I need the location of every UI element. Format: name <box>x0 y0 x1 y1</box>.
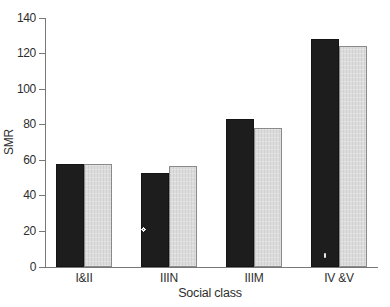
bar-black-3 <box>226 119 254 267</box>
scan-artifact-ring <box>141 227 146 232</box>
y-tick-mark-80 <box>39 124 45 125</box>
x-tick-label-1: I&II <box>44 271 124 285</box>
y-tick-mark-140 <box>39 18 45 19</box>
y-tick-label-80: 80 <box>4 118 36 131</box>
bar-chart-figure: SMR 020406080100120140I&IIIIINIIIMIV &V … <box>0 0 390 307</box>
bar-black-4 <box>311 39 339 267</box>
bar-grey-3 <box>254 128 282 267</box>
bar-grey-4 <box>339 46 367 267</box>
plot-area: 020406080100120140I&IIIIINIIIMIV &V <box>45 18 368 267</box>
x-tick-label-2: IIIN <box>129 271 209 285</box>
y-tick-label-120: 120 <box>4 47 36 60</box>
bar-black-2 <box>141 173 169 267</box>
x-axis-label: Social class <box>45 286 375 300</box>
bar-grey-1 <box>84 164 112 267</box>
x-axis-line <box>45 267 378 268</box>
y-tick-label-0: 0 <box>4 261 36 274</box>
y-tick-mark-40 <box>39 195 45 196</box>
y-tick-mark-60 <box>39 160 45 161</box>
y-tick-mark-120 <box>39 53 45 54</box>
y-tick-label-20: 20 <box>4 225 36 238</box>
y-tick-label-60: 60 <box>4 154 36 167</box>
y-tick-label-140: 140 <box>4 12 36 25</box>
bar-grey-2 <box>169 166 197 267</box>
y-tick-mark-100 <box>39 89 45 90</box>
y-axis-line <box>45 18 46 268</box>
x-tick-label-3: IIIM <box>214 271 294 285</box>
y-axis-label: SMR <box>2 129 16 155</box>
y-tick-label-100: 100 <box>4 83 36 96</box>
bar-black-1 <box>56 164 84 267</box>
y-tick-label-40: 40 <box>4 189 36 202</box>
y-tick-mark-0 <box>39 267 45 268</box>
y-tick-mark-20 <box>39 231 45 232</box>
x-tick-label-4: IV &V <box>299 271 379 285</box>
scan-artifact-dash <box>324 253 326 258</box>
